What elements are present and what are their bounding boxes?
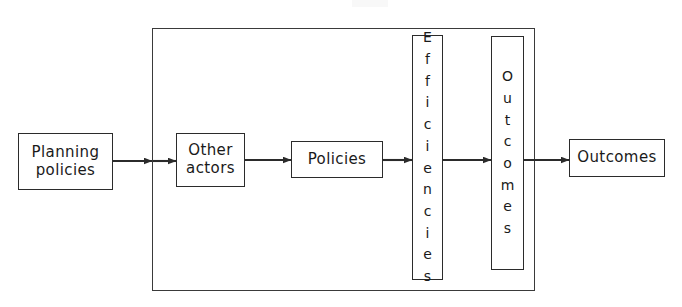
vertical-letter: i (426, 92, 430, 114)
node-efficiencies: Efficiencies (412, 35, 443, 280)
vertical-letter: c (424, 201, 432, 223)
node-planning-policies: Planning policies (18, 133, 113, 190)
vertical-letter: E (423, 27, 432, 49)
node-outcomes-final: Outcomes (569, 139, 665, 177)
node-policies: Policies (291, 141, 383, 178)
node-outcomes-internal-label: Outcomes (501, 66, 515, 240)
node-other-actors: Other actors (176, 133, 245, 187)
diagram-canvas: Planning policies Other actors Policies … (0, 0, 682, 307)
vertical-letter: e (423, 158, 432, 180)
vertical-letter: i (426, 223, 430, 245)
vertical-letter: e (503, 196, 512, 218)
vertical-letter: u (503, 88, 512, 110)
vertical-letter: m (501, 175, 515, 197)
vertical-letter: n (423, 179, 432, 201)
node-policies-label: Policies (308, 151, 367, 169)
node-planning-policies-label: Planning policies (32, 144, 100, 179)
node-other-actors-label: Other actors (186, 142, 235, 177)
node-outcomes-internal: Outcomes (491, 36, 524, 270)
vertical-letter: o (503, 153, 512, 175)
vertical-letter: c (424, 114, 432, 136)
scan-artifact-smudge (352, 0, 388, 7)
vertical-letter: f (425, 49, 430, 71)
vertical-letter: O (502, 66, 513, 88)
vertical-letter: t (505, 110, 511, 132)
vertical-letter: s (504, 218, 511, 240)
vertical-letter: e (423, 244, 432, 266)
vertical-letter: f (425, 71, 430, 93)
vertical-letter: c (504, 131, 512, 153)
node-efficiencies-label: Efficiencies (423, 27, 432, 287)
node-outcomes-final-label: Outcomes (577, 149, 656, 167)
vertical-letter: i (426, 136, 430, 158)
vertical-letter: s (424, 266, 431, 288)
